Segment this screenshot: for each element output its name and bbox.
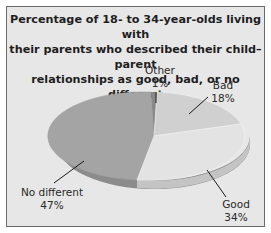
label-good: Good 34% — [219, 198, 253, 224]
label-bad-value: 18% — [208, 92, 238, 105]
label-other-name: Other — [143, 64, 177, 77]
label-bad: Bad 18% — [208, 79, 238, 105]
slice-no-different — [48, 92, 154, 180]
label-good-name: Good — [219, 198, 253, 211]
label-no-different-value: 47% — [17, 199, 87, 212]
label-other-value: 1% — [143, 77, 177, 90]
label-good-value: 34% — [219, 211, 253, 224]
label-other: Other 1% — [143, 64, 177, 90]
label-no-different-name: No different — [17, 186, 87, 199]
label-no-different: No different 47% — [17, 186, 87, 212]
label-bad-name: Bad — [208, 79, 238, 92]
